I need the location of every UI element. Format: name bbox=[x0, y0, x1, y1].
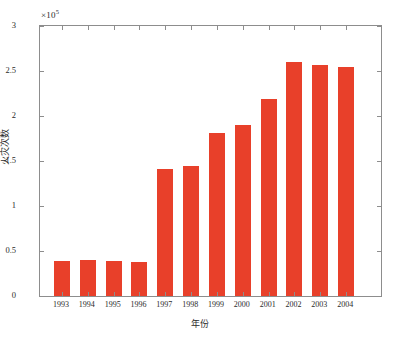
y-axis-tick-mark bbox=[377, 161, 381, 162]
y-axis-tick-label: 3 bbox=[0, 20, 16, 30]
x-axis-tick-label: 1993 bbox=[53, 300, 69, 309]
y-axis-tick-mark bbox=[40, 296, 44, 297]
bar bbox=[106, 261, 122, 296]
y-axis-tick-mark bbox=[40, 206, 44, 207]
x-axis-tick-mark bbox=[269, 26, 270, 30]
x-axis-tick-mark bbox=[217, 26, 218, 30]
x-axis-tick-label: 1995 bbox=[105, 300, 121, 309]
bar bbox=[338, 67, 354, 297]
y-axis-tick-label: 0 bbox=[0, 290, 16, 300]
x-axis-tick-mark bbox=[62, 26, 63, 30]
bar bbox=[235, 125, 251, 296]
x-axis-tick-label: 2001 bbox=[260, 300, 276, 309]
x-axis-tick-mark bbox=[62, 292, 63, 296]
x-axis-tick-mark bbox=[346, 26, 347, 30]
y-axis-tick-mark bbox=[40, 71, 44, 72]
x-axis-tick-label: 1998 bbox=[182, 300, 198, 309]
y-axis-tick-mark bbox=[40, 161, 44, 162]
x-axis-tick-mark bbox=[88, 292, 89, 296]
x-axis-tick-mark bbox=[114, 292, 115, 296]
exponent-power: 5 bbox=[56, 8, 59, 15]
y-axis-tick-mark bbox=[377, 116, 381, 117]
x-axis-tick-label: 2002 bbox=[285, 300, 301, 309]
x-axis-tick-mark bbox=[294, 292, 295, 296]
x-axis-tick-label: 1997 bbox=[156, 300, 172, 309]
bar bbox=[183, 166, 199, 296]
plot-frame bbox=[39, 25, 382, 297]
x-axis-tick-mark bbox=[139, 26, 140, 30]
y-axis-tick-mark bbox=[377, 26, 381, 27]
y-axis-tick-mark bbox=[377, 71, 381, 72]
y-axis-tick-mark bbox=[40, 116, 44, 117]
x-axis-tick-mark bbox=[165, 292, 166, 296]
x-axis-tick-mark bbox=[217, 292, 218, 296]
y-axis-tick-label: 2.5 bbox=[0, 65, 16, 75]
x-axis-tick-mark bbox=[269, 292, 270, 296]
x-axis-title: 年份 bbox=[0, 317, 399, 330]
y-axis-exponent-label: ×105 bbox=[41, 8, 59, 20]
y-axis-tick-mark bbox=[377, 296, 381, 297]
y-axis-tick-mark bbox=[40, 251, 44, 252]
exponent-base: ×10 bbox=[41, 10, 56, 20]
bar bbox=[261, 99, 277, 296]
x-axis-tick-mark bbox=[320, 26, 321, 30]
bar bbox=[312, 65, 328, 296]
x-axis-tick-mark bbox=[165, 26, 166, 30]
y-axis-tick-label: 0.5 bbox=[0, 245, 16, 255]
bar bbox=[209, 133, 225, 296]
x-axis-tick-mark bbox=[139, 292, 140, 296]
y-axis-tick-label: 1.5 bbox=[0, 155, 16, 165]
chart-figure: ×105 火灾次数 年份 00.511.522.5319931994199519… bbox=[0, 0, 399, 344]
x-axis-tick-mark bbox=[320, 292, 321, 296]
x-axis-tick-mark bbox=[243, 292, 244, 296]
x-axis-tick-mark bbox=[191, 26, 192, 30]
x-axis-tick-mark bbox=[88, 26, 89, 30]
x-axis-tick-label: 1999 bbox=[208, 300, 224, 309]
bar bbox=[54, 261, 70, 296]
bar bbox=[80, 260, 96, 296]
y-axis-tick-mark bbox=[377, 206, 381, 207]
x-axis-tick-label: 1994 bbox=[79, 300, 95, 309]
y-axis-tick-label: 2 bbox=[0, 110, 16, 120]
x-axis-tick-label: 2000 bbox=[234, 300, 250, 309]
x-axis-tick-label: 2003 bbox=[311, 300, 327, 309]
bar bbox=[131, 262, 147, 296]
x-axis-tick-label: 1996 bbox=[130, 300, 146, 309]
y-axis-tick-label: 1 bbox=[0, 200, 16, 210]
x-axis-tick-mark bbox=[243, 26, 244, 30]
x-axis-tick-mark bbox=[346, 292, 347, 296]
x-axis-tick-mark bbox=[294, 26, 295, 30]
x-axis-tick-label: 2004 bbox=[337, 300, 353, 309]
x-axis-tick-mark bbox=[114, 26, 115, 30]
y-axis-tick-mark bbox=[40, 26, 44, 27]
y-axis-tick-mark bbox=[377, 251, 381, 252]
x-axis-tick-mark bbox=[191, 292, 192, 296]
bar bbox=[157, 169, 173, 296]
plot-area bbox=[40, 26, 381, 296]
bar bbox=[286, 62, 302, 296]
